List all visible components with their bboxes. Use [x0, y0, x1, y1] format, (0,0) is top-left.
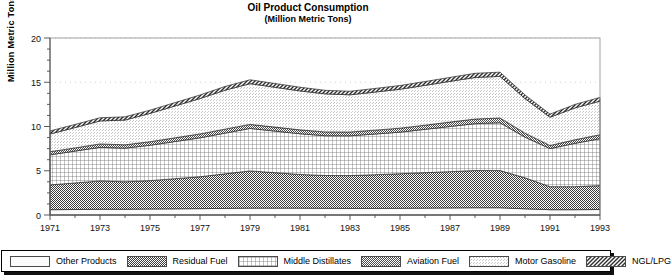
y-tick-label: 20	[31, 34, 41, 44]
x-tick-label: 1977	[190, 223, 210, 233]
legend-swatch-ngl-lpg	[586, 256, 626, 267]
x-tick-label: 1993	[590, 223, 610, 233]
legend-label: Aviation Fuel	[407, 256, 459, 267]
legend-item[interactable]: Other Products	[10, 256, 117, 267]
x-tick-label: 1989	[490, 223, 510, 233]
legend-label: Other Products	[56, 256, 117, 267]
chart-legend: Other ProductsResidual FuelMiddle Distil…	[1, 250, 611, 272]
legend-swatch-motor-gasoline	[469, 256, 509, 267]
legend-item[interactable]: NGL/LPG	[586, 256, 671, 267]
chart-area: 0510152019711973197519771979198119831985…	[0, 28, 616, 240]
y-tick-label: 0	[36, 211, 41, 221]
legend-label: NGL/LPG	[632, 256, 671, 267]
y-tick-label: 15	[31, 78, 41, 88]
legend-item[interactable]: Residual Fuel	[127, 256, 228, 267]
legend-label: Middle Distillates	[284, 256, 352, 267]
chart-title-block: Oil Product Consumption (Million Metric …	[0, 2, 616, 25]
y-tick-label: 5	[36, 166, 41, 176]
x-tick-label: 1975	[140, 223, 160, 233]
legend-swatch-other-products	[10, 256, 50, 267]
x-tick-label: 1987	[440, 223, 460, 233]
legend-label: Motor Gasoline	[515, 256, 576, 267]
x-tick-label: 1973	[90, 223, 110, 233]
legend-item[interactable]: Motor Gasoline	[469, 256, 576, 267]
x-tick-label: 1971	[40, 223, 60, 233]
x-tick-label: 1981	[290, 223, 310, 233]
y-tick-label: 10	[31, 122, 41, 132]
chart-subtitle: (Million Metric Tons)	[0, 14, 616, 25]
legend-swatch-middle-distillates	[238, 256, 278, 267]
area-series-layer	[50, 72, 600, 215]
chart-title: Oil Product Consumption	[0, 2, 616, 14]
x-tick-label: 1983	[340, 223, 360, 233]
x-tick-label: 1991	[540, 223, 560, 233]
x-tick-label: 1979	[240, 223, 260, 233]
legend-item[interactable]: Aviation Fuel	[361, 256, 459, 267]
x-tick-label: 1985	[390, 223, 410, 233]
legend-swatch-aviation-fuel	[361, 256, 401, 267]
stacked-area-chart: 0510152019711973197519771979198119831985…	[0, 28, 616, 240]
legend-label: Residual Fuel	[173, 256, 228, 267]
legend-item[interactable]: Middle Distillates	[238, 256, 352, 267]
legend-swatch-residual-fuel	[127, 256, 167, 267]
